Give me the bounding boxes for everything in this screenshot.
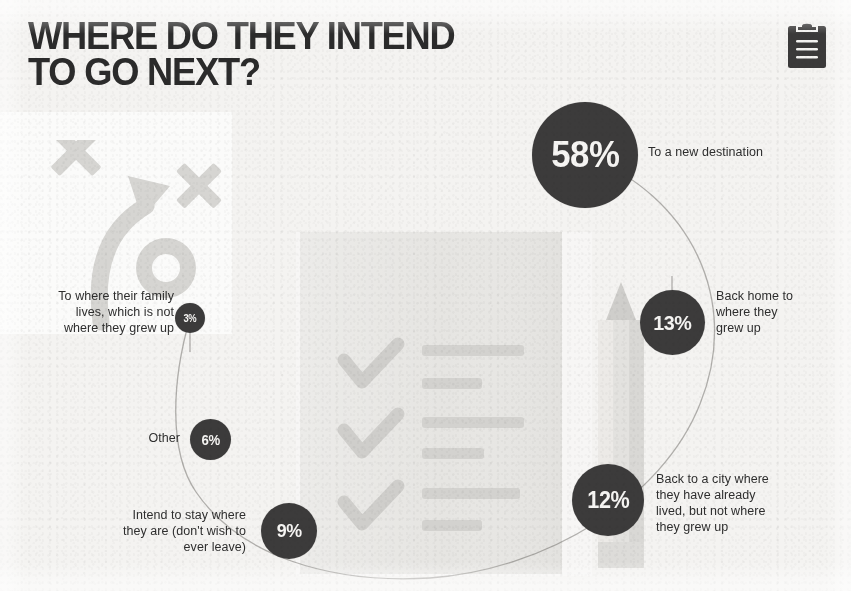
bubble-value: 6% xyxy=(201,432,219,448)
bubble-stay-where[interactable]: 9% xyxy=(261,503,317,559)
label-new-destination: To a new destination xyxy=(648,145,838,161)
label-back-to-city: Back to a city where they have already l… xyxy=(656,472,846,536)
bubble-new-destination[interactable]: 58% xyxy=(532,102,638,208)
page-title: WHERE DO THEY INTEND TO GO NEXT? xyxy=(28,18,455,90)
clipboard-icon xyxy=(785,18,829,70)
bubble-value: 9% xyxy=(277,520,302,542)
infographic-canvas: WHERE DO THEY INTEND TO GO NEXT? 58% To … xyxy=(0,0,851,591)
label-stay-where: Intend to stay where they are (don't wis… xyxy=(78,508,246,556)
label-other: Other xyxy=(104,431,180,447)
bubble-back-to-city[interactable]: 12% xyxy=(572,464,644,536)
bubble-other[interactable]: 6% xyxy=(190,419,231,460)
bubble-value: 58% xyxy=(551,134,619,176)
bubble-back-home[interactable]: 13% xyxy=(640,290,705,355)
bubble-family-lives[interactable]: 3% xyxy=(175,303,205,333)
label-family-lives: To where their family lives, which is no… xyxy=(14,289,174,337)
bubble-value: 13% xyxy=(653,311,691,335)
bubble-value: 12% xyxy=(587,487,629,514)
label-back-home: Back home to where they grew up xyxy=(716,289,840,337)
bubble-value: 3% xyxy=(184,313,197,324)
